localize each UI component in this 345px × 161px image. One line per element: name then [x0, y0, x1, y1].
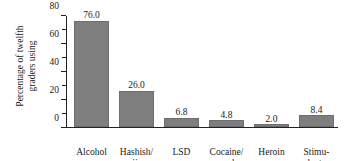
x-category-label-lsd-line-1: LSD	[173, 147, 191, 158]
y-tick-minor-70	[62, 29, 66, 30]
x-category-label-hashish-marijuana-line-1: Hashish/	[118, 147, 156, 158]
x-category-label-stimulants: Stimu- lants	[304, 147, 330, 161]
plot-area: 0 20 40 60 80 76.0 26.0 6.8 4.8 2.0 8.4 …	[66, 16, 338, 128]
x-category-label-cocaine-crack: Cocaine/ crack	[210, 147, 244, 161]
x-category-label-cocaine-crack-line-1: Cocaine/	[210, 147, 244, 158]
bar-hashish-marijuana	[119, 91, 154, 127]
y-tick-60	[61, 43, 66, 44]
y-tick-40	[61, 71, 66, 72]
bar-value-lsd: 6.8	[176, 107, 188, 117]
x-category-label-lsd: LSD	[173, 147, 191, 158]
y-tick-minor-50	[62, 57, 66, 58]
x-category-label-cocaine-crack-line-2: crack	[210, 158, 244, 161]
y-tick-80	[61, 15, 66, 16]
y-tick-minor-10	[62, 113, 66, 114]
x-category-label-hashish-marijuana: Hashish/ marijuana	[118, 147, 156, 161]
y-tick-0	[61, 127, 66, 128]
y-axis-title: Percentage of twelfth graders using	[6, 0, 46, 132]
x-category-label-heroin-line-1: Heroin	[258, 147, 284, 158]
x-axis-line	[66, 127, 338, 128]
bar-heroin	[254, 124, 289, 127]
bar-value-stimulants: 8.4	[311, 105, 323, 115]
chart-figure: Percentage of twelfth graders using 0 20…	[0, 0, 345, 161]
y-tick-label-60: 60	[50, 29, 60, 39]
y-tick-20	[61, 99, 66, 100]
bar-lsd	[164, 118, 199, 128]
y-axis-line	[66, 16, 67, 128]
y-axis-title-line-1: Percentage of twelfth	[15, 25, 27, 106]
x-category-label-hashish-marijuana-line-2: marijuana	[118, 158, 156, 161]
bar-stimulants	[299, 115, 334, 127]
bar-alcohol	[74, 21, 109, 127]
x-category-label-heroin: Heroin	[258, 147, 284, 158]
bar-value-cocaine-crack: 4.8	[221, 110, 233, 120]
x-category-label-stimulants-line-1: Stimu-	[304, 147, 330, 158]
y-tick-label-40: 40	[50, 57, 60, 67]
y-tick-label-0: 0	[54, 113, 59, 123]
x-category-label-alcohol-line-1: Alcohol	[76, 147, 107, 158]
y-axis-title-line-2: graders using	[26, 25, 38, 106]
x-category-label-alcohol: Alcohol	[76, 147, 107, 158]
y-tick-label-20: 20	[50, 85, 60, 95]
bar-cocaine-crack	[209, 120, 244, 127]
y-tick-minor-30	[62, 85, 66, 86]
y-tick-label-80: 80	[50, 1, 60, 11]
x-category-label-stimulants-line-2: lants	[304, 158, 330, 161]
bar-value-alcohol: 76.0	[83, 10, 100, 20]
bar-value-heroin: 2.0	[266, 114, 278, 124]
bar-value-hashish-marijuana: 26.0	[128, 80, 145, 90]
